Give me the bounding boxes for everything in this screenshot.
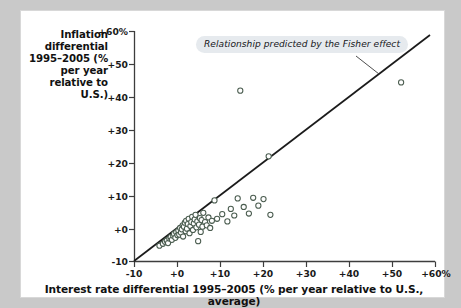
data-point bbox=[228, 206, 233, 211]
y-tick-label: +30 bbox=[92, 125, 128, 136]
data-point bbox=[225, 219, 230, 224]
data-point bbox=[208, 225, 213, 230]
x-tick-label: +10 bbox=[200, 268, 240, 279]
data-point bbox=[266, 154, 271, 159]
data-point bbox=[241, 204, 246, 209]
x-tick-marks bbox=[135, 262, 436, 268]
data-point bbox=[214, 216, 219, 221]
data-point bbox=[220, 212, 225, 217]
data-point bbox=[246, 211, 251, 216]
data-point bbox=[209, 218, 214, 223]
data-point bbox=[180, 234, 185, 239]
x-tick-label: +30 bbox=[286, 268, 326, 279]
data-point bbox=[256, 203, 261, 208]
data-point bbox=[261, 196, 266, 201]
scatter-chart: +60% +50 +40 +30 +20 +10 +0 -10 -10 +0 +… bbox=[0, 0, 461, 308]
y-tick-label: +20 bbox=[92, 158, 128, 169]
data-point bbox=[399, 80, 404, 85]
fisher-effect-annotation: Relationship predicted by the Fisher eff… bbox=[196, 36, 408, 53]
data-point bbox=[235, 196, 240, 201]
y-tick-label: +10 bbox=[92, 191, 128, 202]
x-tick-label: +60% bbox=[416, 268, 456, 279]
x-tick-label: +50 bbox=[372, 268, 412, 279]
x-tick-label: +20 bbox=[243, 268, 283, 279]
data-point bbox=[268, 212, 273, 217]
x-tick-label: -10 bbox=[114, 268, 154, 279]
data-point-group bbox=[157, 80, 404, 248]
y-tick-label: +0 bbox=[92, 224, 128, 235]
data-point bbox=[201, 210, 206, 215]
annotation-leader-line bbox=[356, 56, 379, 74]
data-point bbox=[198, 229, 203, 234]
y-tick-marks bbox=[129, 32, 135, 262]
x-tick-label: +40 bbox=[329, 268, 369, 279]
x-tick-label: +0 bbox=[157, 268, 197, 279]
figure-root: +60% +50 +40 +30 +20 +10 +0 -10 -10 +0 +… bbox=[0, 0, 461, 308]
data-point bbox=[196, 239, 201, 244]
data-point bbox=[251, 195, 256, 200]
x-axis-title: Interest rate differential 1995–2005 (% … bbox=[34, 283, 434, 307]
data-point bbox=[232, 213, 237, 218]
data-point bbox=[212, 198, 217, 203]
y-axis-title: Inflation differential 1995–2005 (% per … bbox=[24, 29, 108, 102]
y-tick-label: -10 bbox=[92, 256, 128, 267]
data-point bbox=[238, 88, 243, 93]
